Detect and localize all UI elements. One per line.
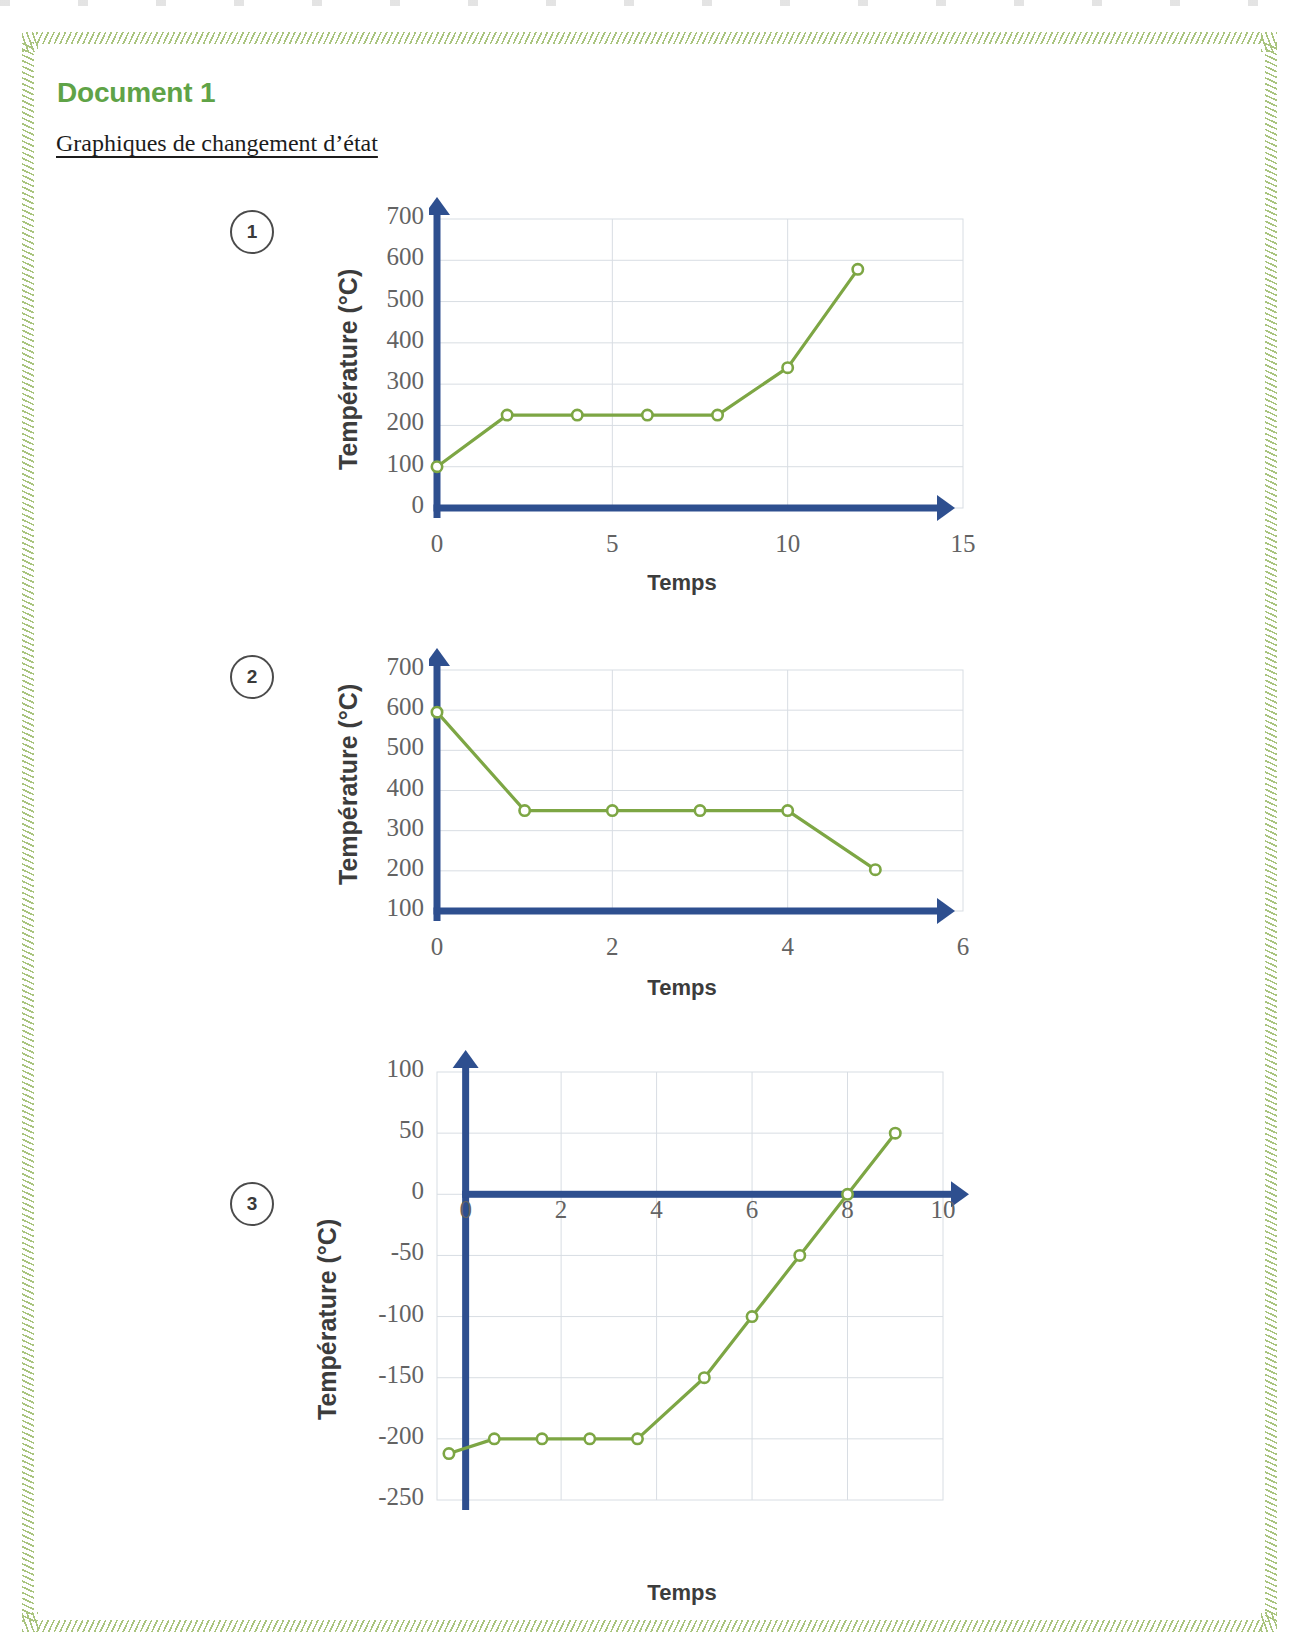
border-left xyxy=(22,42,34,1622)
chart-2-xtick: 0 xyxy=(397,933,477,961)
chart-2-ytick: 100 xyxy=(304,894,424,922)
chart-3-xtick: 4 xyxy=(617,1196,697,1224)
chart-2-xtick: 2 xyxy=(572,933,652,961)
chart-2-ytick: 700 xyxy=(304,653,424,681)
chart-2-xtick: 4 xyxy=(748,933,828,961)
border-right xyxy=(1265,42,1277,1622)
chart-1-ytick: 100 xyxy=(304,450,424,478)
chart-1-xtick: 10 xyxy=(748,530,828,558)
chart-1-xtick: 5 xyxy=(572,530,652,558)
chart-2-xtick: 6 xyxy=(923,933,1003,961)
chart-1-xtick: 0 xyxy=(397,530,477,558)
chart-2-plot-area xyxy=(429,648,1001,929)
border-corner-bottom-right xyxy=(1261,1612,1277,1632)
chart-3-ytick: -200 xyxy=(304,1422,424,1450)
chart-3-xtick: 10 xyxy=(903,1196,983,1224)
scan-artifact-sliver xyxy=(0,0,1299,6)
border-corner-bottom-left xyxy=(22,1612,38,1632)
border-bottom xyxy=(36,1620,1263,1632)
chart-1-ytick: 400 xyxy=(304,326,424,354)
chart-3-ytick: -150 xyxy=(304,1361,424,1389)
chart-2-ytick: 400 xyxy=(304,774,424,802)
chart-1-xtick: 15 xyxy=(923,530,1003,558)
chart-3-ytick: -250 xyxy=(304,1483,424,1511)
chart-3-ytick: 100 xyxy=(304,1055,424,1083)
border-corner-top-right xyxy=(1261,32,1277,52)
chart-3-x-axis-label: Temps xyxy=(612,1580,752,1606)
chart-2-x-axis-label: Temps xyxy=(612,975,752,1001)
chart-2-ytick: 600 xyxy=(304,693,424,721)
chart-3-xtick: 0 xyxy=(426,1196,506,1224)
chart-1-badge: 1 xyxy=(230,210,274,254)
border-corner-top-left xyxy=(22,32,38,52)
chart-1-ytick: 500 xyxy=(304,285,424,313)
chart-2-ytick: 500 xyxy=(304,733,424,761)
chart-3-xtick: 2 xyxy=(521,1196,601,1224)
chart-1-ytick: 600 xyxy=(304,243,424,271)
chart-3-ytick: -100 xyxy=(304,1300,424,1328)
chart-1-ytick: 700 xyxy=(304,202,424,230)
border-top xyxy=(36,32,1263,44)
page-title: Document 1 xyxy=(57,77,215,109)
chart-1-ytick: 200 xyxy=(304,408,424,436)
chart-1-plot-area xyxy=(429,197,1001,526)
document-page: Document 1 Graphiques de changement d’ét… xyxy=(0,0,1299,1639)
chart-2-ytick: 300 xyxy=(304,814,424,842)
chart-3-xtick: 8 xyxy=(808,1196,888,1224)
chart-2-badge: 2 xyxy=(230,655,274,699)
chart-1-ytick: 300 xyxy=(304,367,424,395)
chart-3-ytick: 50 xyxy=(304,1116,424,1144)
chart-3-badge: 3 xyxy=(230,1182,274,1226)
chart-3-xtick: 6 xyxy=(712,1196,792,1224)
chart-2-ytick: 200 xyxy=(304,854,424,882)
chart-3-ytick: 0 xyxy=(304,1177,424,1205)
chart-1-ytick: 0 xyxy=(304,491,424,519)
chart-1-x-axis-label: Temps xyxy=(612,570,752,596)
chart-3-ytick: -50 xyxy=(304,1238,424,1266)
chart-3-plot-area xyxy=(429,1050,981,1518)
page-subtitle: Graphiques de changement d’état xyxy=(56,130,378,157)
